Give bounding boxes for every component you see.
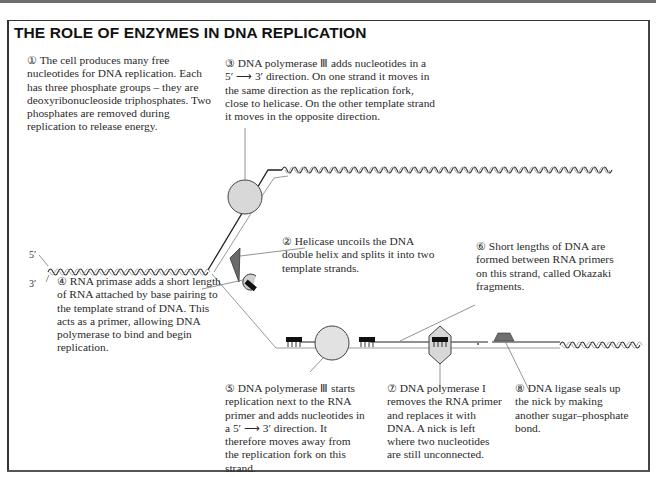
note-2-helicase: ② Helicase uncoils the DNA double helix … [282, 235, 442, 275]
note-5-dna-polymerase-iii-lagging: ⑤ DNA polymerase Ⅲ starts replication ne… [225, 382, 365, 475]
dna-ligase-icon [494, 333, 514, 341]
helicase-icon [230, 248, 240, 282]
note-8-dna-ligase: ⑧ DNA ligase seals up the nick by making… [515, 382, 635, 435]
note-1-free-nucleotides: ① The cell produces many free nucleotide… [27, 54, 217, 134]
dna-polymerase-i-icon [429, 326, 451, 364]
dna-polymerase-iii-leading-icon [228, 180, 262, 214]
rna-primer-1-icon [286, 337, 302, 347]
note-6-okazaki-fragments: ⑥ Short lengths of DNA are formed betwee… [476, 240, 626, 293]
note-4-rna-primase: ④ RNA primase adds a short length of RNA… [57, 275, 229, 355]
rna-primase-icon [243, 274, 257, 291]
note-7-dna-polymerase-i: ⑦ DNA polymerase I removes the RNA prime… [387, 382, 505, 462]
rna-primer-2-icon [359, 337, 375, 347]
dna-polymerase-iii-lagging-icon [315, 326, 349, 360]
note-3-dna-polymerase-iii: ③ DNA polymerase Ⅲ adds nucleotides in a… [225, 57, 437, 123]
five-prime-label: 5′ [29, 249, 36, 260]
three-prime-label: 3′ [29, 278, 36, 289]
nick-marker [477, 343, 479, 345]
